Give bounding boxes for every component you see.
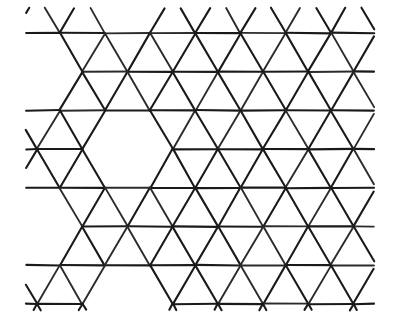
- lattice-edge: [286, 33, 331, 34]
- tessellation-figure: [0, 0, 400, 318]
- lattice-edge: [26, 110, 60, 111]
- lattice-edge: [26, 265, 59, 266]
- lattice-edge: [195, 110, 240, 111]
- lattice-edge: [331, 33, 375, 34]
- lattice-edge: [127, 226, 172, 227]
- lattice-edge: [196, 265, 241, 266]
- lattice-edge: [353, 304, 374, 305]
- tessellation-canvas: [0, 0, 400, 318]
